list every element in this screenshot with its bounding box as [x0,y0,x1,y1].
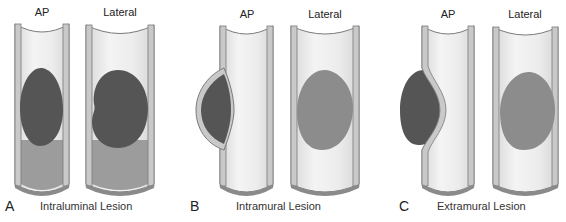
panel-a-ap-label: AP [35,6,50,18]
panel-c-lateral-label: Lateral [508,8,542,20]
panel-a-ap-tube [15,24,69,196]
panel-b-letter: B [190,198,199,214]
panel-b-ap-tube [196,26,273,196]
panel-b-lateral-label: Lateral [308,8,342,20]
intraluminal-lesion-lateral [92,70,148,148]
panel-c-ap-label: AP [441,8,456,20]
panel-a-letter: A [5,198,14,214]
lesion-diagram [0,0,566,222]
panel-b-lateral-tube [291,26,359,196]
panel-c-lateral-tube [493,27,558,196]
panel-a-lateral-tube [86,25,154,196]
panel-b-ap-label: AP [240,8,255,20]
panel-c-caption: Extramural Lesion [437,200,526,212]
panel-b-caption: Intramural Lesion [236,200,321,212]
panel-a-caption: Intraluminal Lesion [40,200,132,212]
panel-c-letter: C [399,198,409,214]
panel-a-lateral-label: Lateral [103,6,137,18]
panel-c-ap-tube [400,26,474,196]
